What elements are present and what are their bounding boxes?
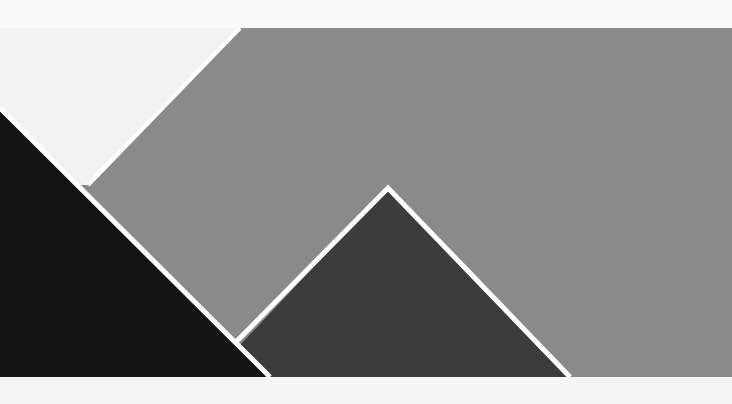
bottom-band-cover xyxy=(0,377,732,404)
top-band xyxy=(0,0,732,28)
geometric-artwork xyxy=(0,0,732,404)
artwork-canvas xyxy=(0,0,732,404)
